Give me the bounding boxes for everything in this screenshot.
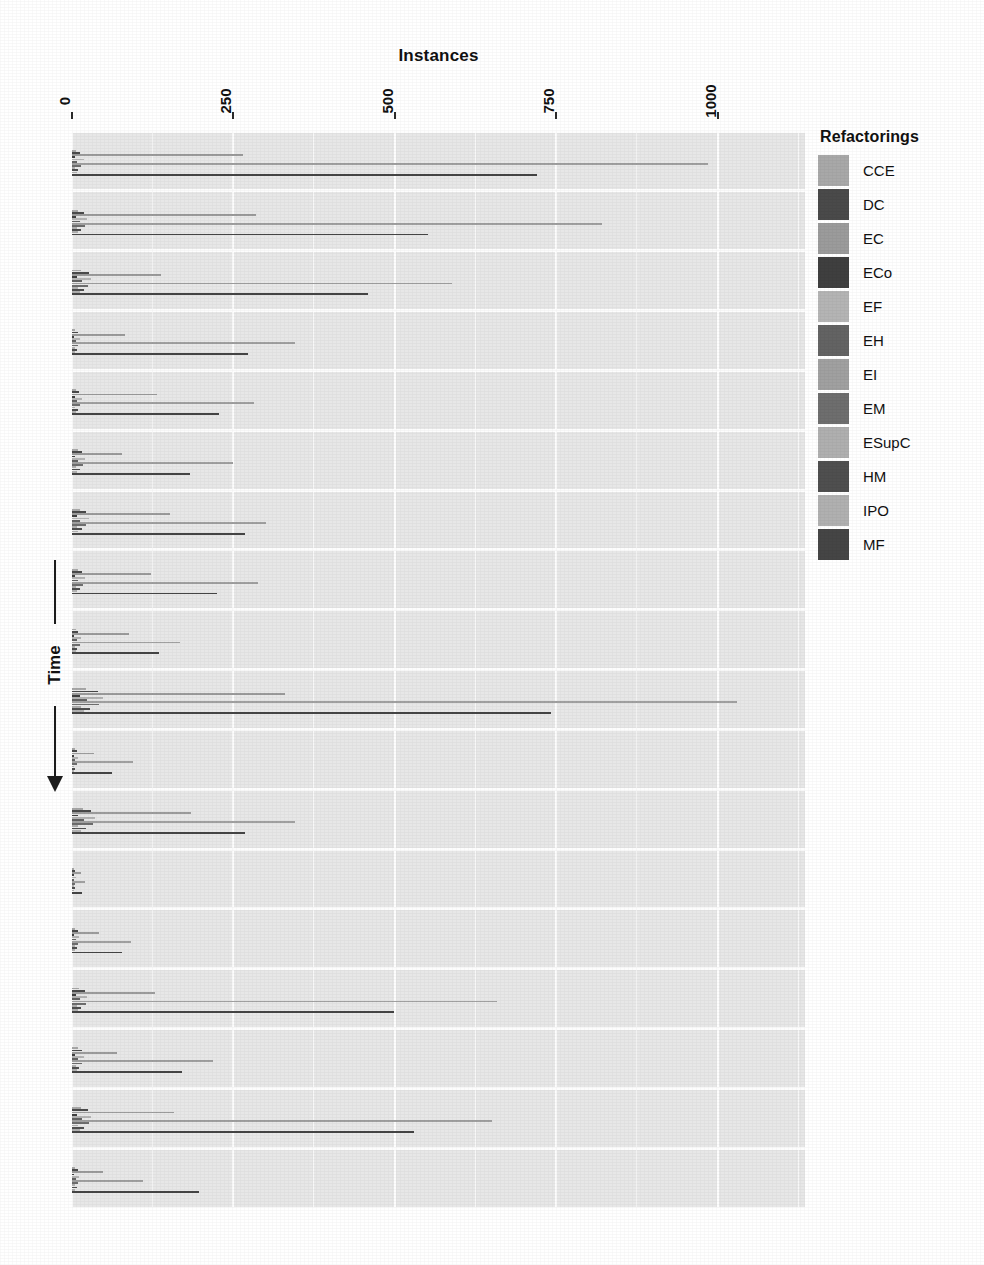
bar-EC [72, 453, 122, 455]
bar-MF [72, 1131, 414, 1133]
bar-EI [72, 1001, 497, 1003]
bar-EC [72, 154, 243, 156]
horizontal-grid-line [72, 1147, 805, 1150]
legend-swatch-ECo [818, 257, 849, 288]
y-axis-label: Time [42, 624, 68, 706]
x-tick-label: 0 [57, 97, 72, 105]
bar-group [72, 150, 805, 176]
legend-swatch-DC [818, 189, 849, 220]
legend-swatch-CCE [818, 155, 849, 186]
legend-item-EI[interactable]: EI [818, 357, 978, 391]
bar-EI [72, 642, 180, 644]
horizontal-grid-line [72, 848, 805, 851]
bar-group [72, 1107, 805, 1133]
legend-item-EM[interactable]: EM [818, 391, 978, 425]
legend-label: CCE [863, 162, 895, 179]
bar-EC [72, 932, 99, 934]
bar-EI [72, 821, 295, 823]
x-tick-label: 750 [541, 88, 556, 113]
horizontal-grid-line [72, 1207, 805, 1209]
bar-MF [72, 772, 112, 774]
horizontal-grid-line [72, 548, 805, 551]
bar-group [72, 389, 805, 415]
bar-EI [72, 941, 131, 943]
bar-EC [72, 214, 256, 216]
bar-group [72, 509, 805, 535]
legend-item-ESupC[interactable]: ESupC [818, 425, 978, 459]
legend-item-CCE[interactable]: CCE [818, 153, 978, 187]
bar-EI [72, 522, 266, 524]
horizontal-grid-line [72, 189, 805, 192]
legend-label: ECo [863, 264, 892, 281]
bar-MF [72, 174, 537, 176]
bar-EI [72, 1180, 143, 1182]
bar-EC [72, 334, 125, 336]
horizontal-grid-line [72, 369, 805, 372]
bar-group [72, 868, 805, 894]
horizontal-grid-line [72, 1027, 805, 1030]
horizontal-grid-line [72, 309, 805, 312]
x-tick-mark [394, 112, 396, 119]
horizontal-grid-line [72, 429, 805, 432]
legend-swatch-EH [818, 325, 849, 356]
bar-EC [72, 812, 191, 814]
bar-EC [72, 1052, 117, 1054]
legend: Refactorings CCEDCECECoEFEHEIEMESupCHMIP… [818, 128, 978, 561]
x-tick-mark [717, 112, 719, 119]
bar-EI [72, 283, 452, 285]
legend-label: DC [863, 196, 885, 213]
legend-label: ESupC [863, 434, 911, 451]
bar-EC [72, 1171, 103, 1173]
legend-item-DC[interactable]: DC [818, 187, 978, 221]
legend-label: EM [863, 400, 886, 417]
bar-group [72, 808, 805, 834]
legend-label: EC [863, 230, 884, 247]
bar-EI [72, 223, 602, 225]
x-tick-label: 500 [380, 88, 395, 113]
legend-item-EF[interactable]: EF [818, 289, 978, 323]
bar-MF [72, 892, 82, 894]
bar-group [72, 629, 805, 655]
bar-EC [72, 753, 94, 755]
legend-swatch-EI [818, 359, 849, 390]
legend-item-EH[interactable]: EH [818, 323, 978, 357]
bar-group [72, 988, 805, 1014]
bar-EC [72, 1112, 174, 1114]
x-tick-mark [71, 112, 73, 119]
bar-MF [72, 1011, 394, 1013]
bar-MF [72, 1071, 182, 1073]
bar-EC [72, 394, 157, 396]
legend-swatch-HM [818, 461, 849, 492]
legend-label: IPO [863, 502, 889, 519]
horizontal-grid-line [72, 489, 805, 492]
bar-EI [72, 1060, 213, 1062]
legend-item-ECo[interactable]: ECo [818, 255, 978, 289]
legend-swatch-EM [818, 393, 849, 424]
bar-EI [72, 163, 708, 165]
bar-EI [72, 761, 133, 763]
legend-item-IPO[interactable]: IPO [818, 493, 978, 527]
horizontal-grid-line [72, 728, 805, 731]
bar-group [72, 329, 805, 355]
plot-panel [72, 131, 805, 1208]
bar-EC [72, 274, 161, 276]
bar-EI [72, 342, 295, 344]
horizontal-grid-line [72, 608, 805, 611]
legend-item-MF[interactable]: MF [818, 527, 978, 561]
x-axis-title: Instances [72, 46, 805, 66]
bar-group [72, 748, 805, 774]
bar-MF [72, 533, 245, 535]
bar-MF [72, 832, 245, 834]
bar-EI [72, 1120, 492, 1122]
bar-group [72, 569, 805, 595]
legend-swatch-MF [818, 529, 849, 560]
legend-item-HM[interactable]: HM [818, 459, 978, 493]
bar-MF [72, 234, 428, 236]
bar-MF [72, 473, 190, 475]
legend-item-EC[interactable]: EC [818, 221, 978, 255]
horizontal-grid-line [72, 1087, 805, 1090]
bar-group [72, 270, 805, 296]
bar-MF [72, 712, 551, 714]
horizontal-grid-line [72, 249, 805, 252]
horizontal-grid-line [72, 131, 805, 133]
